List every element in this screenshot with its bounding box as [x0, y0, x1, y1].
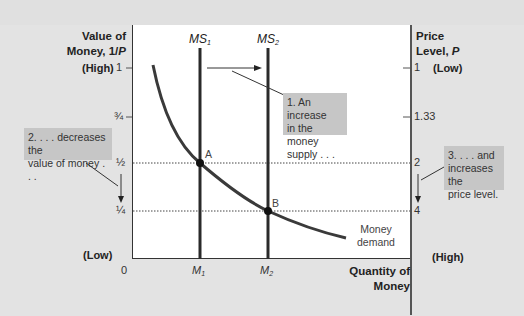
note2-line1: 2. . . . decreases the	[28, 131, 108, 157]
right-high-label: (High)	[432, 251, 464, 263]
note1-line1: 1. An increase	[287, 96, 343, 122]
left-axis-title-var: P	[118, 45, 126, 57]
right-axis-title: Price Level, P	[416, 29, 459, 59]
right-axis-title-line1: Price	[416, 29, 459, 44]
money-demand-label: Money demand	[357, 223, 395, 249]
note3-line3: price level.	[448, 188, 500, 201]
x-axis-title: Quantity of Money	[340, 264, 410, 294]
left-axis-title: Value of Money, 1/P	[62, 29, 126, 59]
ms2-text: MS	[257, 32, 275, 46]
m2-text: M	[260, 264, 269, 276]
note1-line2: in the money	[287, 122, 343, 148]
money-demand-line2: demand	[357, 236, 395, 249]
note-increases-price-level: 3. . . . and increases the price level.	[444, 146, 504, 190]
left-axis-title-line1: Value of	[62, 29, 126, 44]
x-origin-label: 0	[121, 264, 127, 276]
money-demand-line1: Money	[357, 223, 395, 236]
left-high-label: (High)	[82, 62, 114, 74]
note-decreases-value: 2. . . . decreases the value of money . …	[24, 128, 112, 160]
ms2-sub: 2	[275, 39, 279, 46]
note3-line1: 3. . . . and	[448, 149, 500, 162]
m1-sub: 1	[201, 270, 205, 277]
left-low-label: (Low)	[83, 249, 112, 261]
note2-line2: value of money . . .	[28, 157, 108, 183]
note3-leader	[421, 167, 444, 180]
left-axis-title-line2: Money, 1/P	[62, 44, 126, 59]
ms2-label: MS2	[257, 32, 279, 46]
point-b	[264, 207, 272, 215]
left-down-arrow-head	[118, 196, 124, 203]
note1-line3: supply . . .	[287, 148, 343, 161]
right-tick-label-4: 4	[414, 204, 420, 216]
ms1-label: MS1	[189, 32, 211, 46]
m2-sub: 2	[269, 270, 273, 277]
right-down-arrow-head	[415, 196, 421, 203]
m1-text: M	[192, 264, 201, 276]
right-tick-label-2: 2	[414, 156, 420, 168]
note1-leader	[232, 71, 284, 95]
right-tick-label-1-33: 1.33	[414, 110, 435, 122]
point-a-label: A	[205, 148, 212, 160]
ms1-text: MS	[189, 32, 207, 46]
right-axis-title-line2: Level, P	[416, 44, 459, 59]
left-tick-label-1: 1	[116, 61, 122, 73]
ms1-sub: 1	[207, 39, 211, 46]
shift-arrow-head	[254, 65, 262, 71]
x-axis-title-line1: Quantity of	[340, 264, 410, 279]
x-tick-m2: M2	[260, 264, 273, 277]
left-tick-label-1-4: ¼	[116, 204, 125, 216]
right-axis-title-var: P	[452, 45, 460, 57]
x-tick-m1: M1	[192, 264, 205, 277]
note-increase-money-supply: 1. An increase in the money supply . . .	[283, 93, 347, 135]
note3-line2: increases the	[448, 162, 500, 188]
left-tick-label-3-4: ¾	[114, 110, 123, 122]
x-axis-title-line2: Money	[340, 279, 410, 294]
right-axis-title-text: Level,	[416, 45, 452, 57]
right-low-label: (Low)	[433, 62, 462, 74]
left-tick-label-1-2: ½	[116, 156, 125, 168]
right-tick-label-1: 1	[414, 61, 420, 73]
point-b-label: B	[272, 197, 279, 209]
point-a	[196, 159, 204, 167]
left-axis-title-text: Money, 1/	[67, 45, 119, 57]
